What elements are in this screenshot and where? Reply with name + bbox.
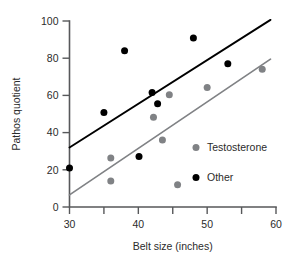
legend-marker-testosterone bbox=[193, 144, 200, 151]
series-testosterone bbox=[107, 66, 265, 188]
legend-label-other: Other bbox=[207, 171, 234, 183]
data-point bbox=[224, 60, 231, 67]
y-axis-title: Pathos quotient bbox=[10, 77, 22, 150]
data-point bbox=[174, 181, 181, 188]
y-tick-label: 100 bbox=[41, 15, 59, 27]
chart-canvas: 02040608010030405060Belt size (inches)Pa… bbox=[0, 0, 297, 276]
data-point bbox=[100, 109, 107, 116]
data-point bbox=[107, 155, 114, 162]
data-point bbox=[121, 47, 128, 54]
scatter-chart: 02040608010030405060Belt size (inches)Pa… bbox=[0, 0, 297, 276]
x-axis-title: Belt size (inches) bbox=[133, 240, 213, 252]
fit-line-other bbox=[70, 20, 271, 148]
legend-marker-other bbox=[193, 174, 200, 181]
x-tick-label: 40 bbox=[132, 218, 144, 230]
data-point bbox=[159, 137, 166, 144]
axis-spines bbox=[70, 21, 277, 207]
data-point bbox=[136, 153, 143, 160]
data-point bbox=[150, 114, 157, 121]
x-tick-label: 50 bbox=[201, 218, 213, 230]
y-tick-label: 20 bbox=[47, 164, 59, 176]
legend-label-testosterone: Testosterone bbox=[207, 141, 267, 153]
fit-line-testosterone bbox=[70, 59, 271, 195]
data-point bbox=[66, 164, 73, 171]
x-axis: 30405060 bbox=[64, 207, 282, 230]
data-point bbox=[204, 84, 211, 91]
data-point bbox=[149, 89, 156, 96]
data-point bbox=[107, 177, 114, 184]
data-point bbox=[154, 100, 161, 107]
y-axis: 020406080100 bbox=[41, 15, 70, 213]
y-tick-label: 40 bbox=[47, 126, 59, 138]
x-tick-label: 30 bbox=[64, 218, 76, 230]
legend: TestosteroneOther bbox=[193, 141, 268, 183]
y-tick-label: 60 bbox=[47, 89, 59, 101]
data-point bbox=[166, 91, 173, 98]
data-point bbox=[259, 66, 266, 73]
y-tick-label: 80 bbox=[47, 52, 59, 64]
data-point bbox=[190, 35, 197, 42]
y-tick-label: 0 bbox=[53, 201, 59, 213]
x-tick-label: 60 bbox=[270, 218, 282, 230]
